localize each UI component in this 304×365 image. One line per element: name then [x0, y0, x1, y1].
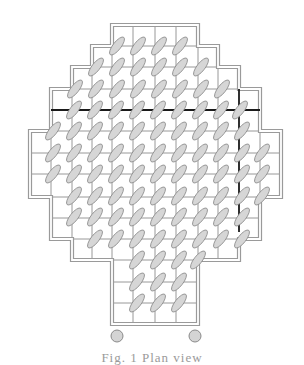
ellipse-element: [190, 185, 210, 207]
ellipse-element: [64, 185, 84, 207]
ellipse-element: [169, 206, 189, 228]
circle-icon: [111, 330, 123, 342]
ellipse-element: [232, 185, 252, 207]
ellipse-element: [85, 185, 105, 207]
ellipse-element: [64, 206, 84, 228]
circle-icon: [189, 330, 201, 342]
ellipse-element: [127, 185, 147, 207]
ellipse-element: [190, 206, 210, 228]
ellipse-element: [148, 206, 168, 228]
ellipse-element: [148, 185, 168, 207]
ellipse-element: [127, 206, 147, 228]
ellipse-element: [106, 206, 126, 228]
ellipse-element: [211, 206, 231, 228]
ellipse-element: [211, 185, 231, 207]
ellipse-element: [232, 206, 252, 228]
figure-caption: Fig. 1 Plan view: [0, 351, 304, 365]
ellipse-element: [169, 185, 189, 207]
ellipse-element: [85, 206, 105, 228]
ellipse-element: [106, 185, 126, 207]
support-circles: [111, 330, 201, 342]
